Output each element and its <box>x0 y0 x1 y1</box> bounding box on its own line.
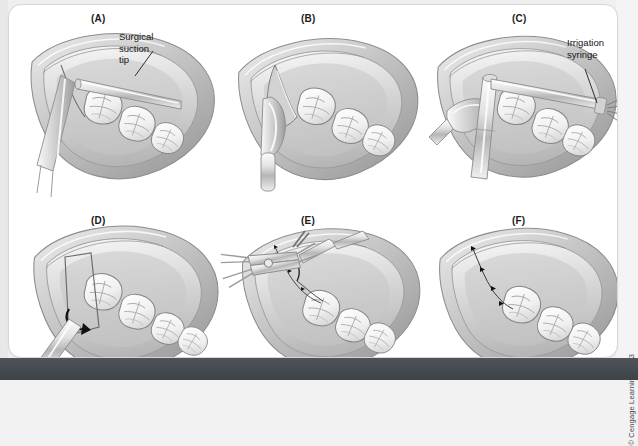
panel-d-label: (D) <box>91 215 105 226</box>
right-margin-strip <box>616 0 638 358</box>
left-margin-strip <box>0 0 8 358</box>
panel-a-label: (A) <box>91 13 105 24</box>
panel-c-label: (C) <box>512 13 526 24</box>
figure-card: (A) Surgical suction tip (B) (C) Irrigat… <box>8 4 618 358</box>
panel-a-callout-surgical-suction-tip: Surgical suction tip <box>119 31 153 66</box>
bottom-bar <box>0 358 638 380</box>
panel-e-label: (E) <box>301 215 315 226</box>
panel-f-label: (F) <box>512 215 525 226</box>
panel-b-label: (B) <box>301 13 315 24</box>
panel-c-callout-irrigation-syringe: Irrigation syringe <box>567 37 604 60</box>
panel-label-layer: (A) Surgical suction tip (B) (C) Irrigat… <box>9 5 617 357</box>
